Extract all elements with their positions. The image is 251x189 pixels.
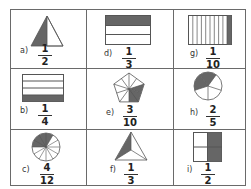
label-i: i) [187,165,192,174]
fraction-i: 1 2 [198,163,218,186]
cell-f: f) 1 3 [86,129,173,186]
rectangle-thirds-icon [105,15,151,45]
fraction-b: 1 4 [35,104,55,127]
label-b: b) [20,106,28,115]
cell-d: d) 1 3 [86,9,173,68]
cell-b: b) 1 4 [10,68,86,129]
fraction-a: 1 2 [35,44,55,67]
fraction-h: 2 5 [203,105,223,128]
rectangle-quarters-icon [22,74,64,102]
label-d: d) [104,49,112,58]
circle-twelfths-icon [31,132,61,162]
fraction-d: 1 3 [119,47,139,70]
label-a: a) [20,46,28,55]
triangle-thirds-icon [114,131,148,161]
rectangle-tenths-icon [188,15,232,45]
fraction-f: 1 3 [121,163,141,186]
cell-c: c) 4 12 [10,129,86,186]
square-halves-icon [193,132,222,162]
fraction-g: 1 10 [203,47,223,70]
label-c: c) [22,165,30,174]
label-e: e) [106,108,114,117]
circle-fifths-icon [193,71,223,101]
cell-e: e) 3 10 [86,68,173,129]
label-g: g) [190,49,198,58]
label-f: f) [110,165,116,174]
cell-h: h) 2 5 [173,68,246,129]
fraction-c: 4 12 [37,163,57,186]
cell-i: i) 1 2 [173,129,246,186]
pentagon-tenths-icon [112,72,146,105]
fraction-e: 3 10 [120,105,140,128]
cell-g: g) 1 10 [173,9,246,68]
cell-a: a) 1 2 [10,9,86,68]
label-h: h) [190,108,198,117]
